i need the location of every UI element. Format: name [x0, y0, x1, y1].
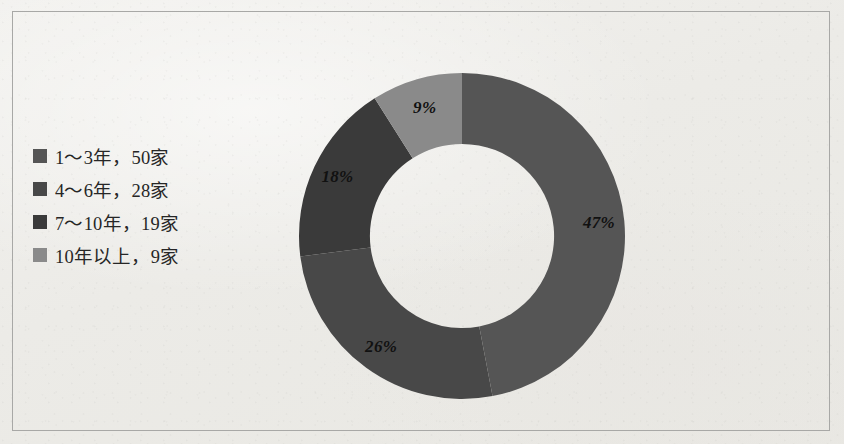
legend-item-label: 7～10年，19家	[55, 209, 179, 235]
legend-item: 10年以上，9家	[33, 238, 248, 271]
doughnut-svg	[298, 72, 626, 400]
legend-item: 1～3年，50家	[33, 139, 248, 172]
legend-item-label: 1～3年，50家	[55, 143, 170, 169]
legend-color-swatch	[33, 149, 47, 163]
legend-item: 4～6年，28家	[33, 172, 248, 205]
chart-legend: 1～3年，50家4～6年，28家7～10年，19家10年以上，9家	[33, 139, 248, 271]
doughnut-slice	[462, 73, 625, 396]
slice-percent-label: 18%	[322, 167, 354, 187]
doughnut-slice	[300, 248, 492, 399]
legend-item-label: 4～6年，28家	[55, 176, 170, 202]
legend-item-label: 10年以上，9家	[55, 242, 179, 268]
slice-percent-label: 47%	[583, 213, 615, 233]
slice-percent-label: 9%	[413, 98, 436, 118]
slice-percent-label: 26%	[365, 337, 397, 357]
doughnut-chart: 47%26%18%9%	[298, 72, 626, 400]
legend-color-swatch	[33, 248, 47, 262]
legend-color-swatch	[33, 182, 47, 196]
legend-item: 7～10年，19家	[33, 205, 248, 238]
legend-color-swatch	[33, 215, 47, 229]
